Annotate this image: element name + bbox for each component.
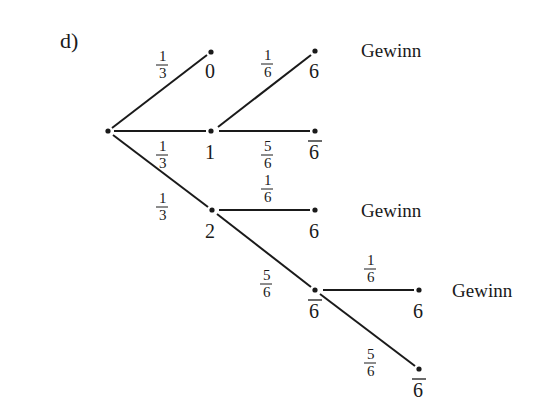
svg-text:5: 5 <box>264 138 272 154</box>
node-label-1-notsix: 6 <box>309 141 319 163</box>
svg-text:6: 6 <box>264 155 272 171</box>
prob-1-six: 1 6 <box>261 47 273 80</box>
svg-text:1: 1 <box>264 172 272 188</box>
node-2-notsix <box>312 287 317 292</box>
node-3-six <box>416 287 421 292</box>
prob-2-notsix: 5 6 <box>260 267 272 300</box>
svg-text:1: 1 <box>264 47 272 63</box>
svg-text:1: 1 <box>159 190 167 206</box>
svg-text:5: 5 <box>263 267 271 283</box>
edge-probabilities: 1 3 1 3 1 3 1 6 5 6 1 <box>156 47 376 379</box>
svg-text:3: 3 <box>159 155 167 171</box>
node-3-notsix <box>416 366 421 371</box>
svg-text:6: 6 <box>264 64 272 80</box>
prob-3-six: 1 6 <box>364 252 376 285</box>
node-1-six <box>312 48 317 53</box>
outcome-gewinn-1: Gewinn <box>361 40 422 61</box>
node-0 <box>208 49 213 54</box>
svg-text:3: 3 <box>159 65 167 81</box>
node-2 <box>209 207 214 212</box>
node-label-1-six: 6 <box>309 60 319 82</box>
svg-text:1: 1 <box>159 48 167 64</box>
node-1 <box>208 128 213 133</box>
svg-text:1: 1 <box>159 138 167 154</box>
node-label-2-notsix: 6 <box>309 300 319 322</box>
svg-text:6: 6 <box>367 363 375 379</box>
svg-text:6: 6 <box>367 269 375 285</box>
svg-text:6: 6 <box>263 284 271 300</box>
svg-text:1: 1 <box>367 252 375 268</box>
part-label: d) <box>60 28 78 53</box>
prob-1-notsix: 5 6 <box>261 138 273 171</box>
node-label-0: 0 <box>205 60 215 82</box>
node-label-2-six: 6 <box>309 220 319 242</box>
svg-text:3: 3 <box>159 207 167 223</box>
node-2-six <box>312 207 317 212</box>
outcome-gewinn-3: Gewinn <box>452 280 513 301</box>
prob-root-0: 1 3 <box>156 48 168 81</box>
node-root <box>105 128 110 133</box>
prob-root-1: 1 3 <box>156 138 168 171</box>
node-label-1: 1 <box>205 141 215 163</box>
prob-3-notsix: 5 6 <box>364 346 376 379</box>
node-label-3-notsix: 6 <box>413 379 423 401</box>
prob-2-six: 1 6 <box>261 172 273 205</box>
node-label-3-six: 6 <box>413 300 423 322</box>
node-1-notsix <box>312 128 317 133</box>
node-label-2: 2 <box>205 220 215 242</box>
outcome-gewinn-2: Gewinn <box>361 200 422 221</box>
svg-text:5: 5 <box>367 346 375 362</box>
prob-root-2: 1 3 <box>156 190 168 223</box>
probability-tree: d) 0 1 2 6 6 6 6 6 6 <box>0 0 542 412</box>
svg-text:6: 6 <box>264 189 272 205</box>
outcome-labels: Gewinn Gewinn Gewinn <box>361 40 513 301</box>
